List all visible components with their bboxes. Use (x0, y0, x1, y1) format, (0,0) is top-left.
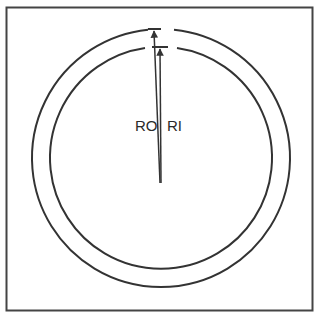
inner-radius-label: RI (167, 117, 182, 134)
outer-radius-arrow (154, 31, 160, 183)
inner-radius-arrow (160, 49, 161, 183)
outer-radius-label: RO (135, 117, 158, 134)
annulus-diagram: RO RI (0, 0, 317, 315)
